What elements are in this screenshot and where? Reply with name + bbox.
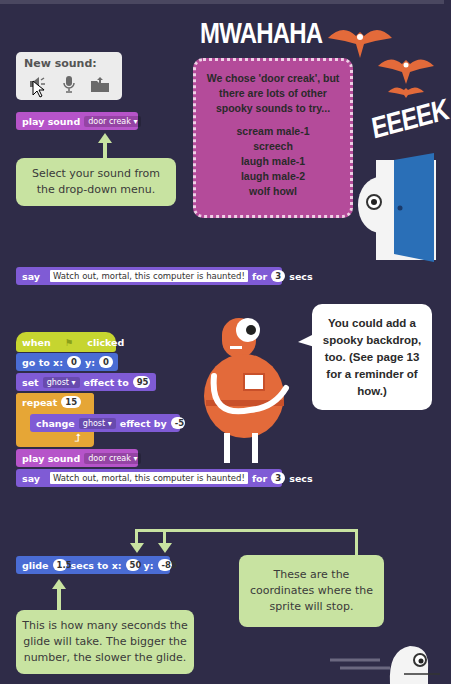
effect-dropdown[interactable]: ghost ▾ bbox=[43, 377, 80, 388]
say-text-input[interactable]: Watch out, mortal, this computer is haun… bbox=[50, 270, 248, 282]
effect-dropdown[interactable]: ghost ▾ bbox=[79, 418, 116, 429]
play-sound-label: play sound bbox=[22, 116, 80, 127]
effect-by-label: effect by bbox=[120, 418, 167, 429]
effect-value-input[interactable]: 95 bbox=[133, 376, 150, 388]
say-label: say bbox=[22, 473, 40, 484]
say-text-input[interactable]: Watch out, mortal, this computer is haun… bbox=[50, 472, 248, 484]
play-sound-block[interactable]: play sound door creak ▾ bbox=[16, 112, 138, 130]
callout-select-sound: Select your sound from the drop-down men… bbox=[16, 158, 176, 206]
sound-item: laugh male-2 bbox=[202, 169, 344, 184]
robot-character-illustration bbox=[200, 308, 310, 468]
goto-label: go to x: bbox=[22, 357, 63, 368]
arrow-head bbox=[158, 543, 172, 553]
arrow-head bbox=[130, 543, 144, 553]
secs-input[interactable]: 3 bbox=[271, 472, 285, 484]
secs-label: secs bbox=[289, 271, 312, 282]
ghost-behind-door-illustration bbox=[356, 150, 444, 265]
top-edge bbox=[0, 0, 444, 4]
clicked-label: clicked bbox=[87, 337, 124, 348]
mwahaha-title: MWAHAHA bbox=[200, 16, 322, 50]
set-label: set bbox=[22, 377, 39, 388]
coords-arrow-line bbox=[355, 529, 358, 555]
for-label: for bbox=[252, 271, 267, 282]
say-block[interactable]: say Watch out, mortal, this computer is … bbox=[16, 469, 282, 487]
repeat-header: repeat 15 bbox=[16, 393, 94, 411]
glide-x-input[interactable]: 50 bbox=[126, 559, 140, 571]
new-sound-panel: New sound: bbox=[16, 52, 122, 100]
spooky-sounds-tip: We chose 'door creak', but there are lot… bbox=[193, 58, 353, 218]
when-flag-clicked-block[interactable]: when ⚑ clicked bbox=[16, 332, 116, 352]
y-label: y: bbox=[85, 357, 95, 368]
glide-y-input[interactable]: -85 bbox=[158, 559, 172, 571]
glide-secs-input[interactable]: 1.5 bbox=[53, 559, 67, 571]
glide-label: glide bbox=[22, 560, 49, 571]
eeeek-title: EEEEK bbox=[369, 92, 450, 145]
change-value-input[interactable]: -5 bbox=[171, 417, 185, 429]
tip-intro: We chose 'door creak', but there are lot… bbox=[202, 71, 344, 116]
callout-seconds: This is how many seconds the glide will … bbox=[16, 610, 194, 674]
arrow-line bbox=[57, 588, 61, 610]
change-label: change bbox=[36, 418, 75, 429]
sound-list: scream male-1 screech laugh male-1 laugh… bbox=[202, 124, 344, 199]
change-effect-block[interactable]: change ghost ▾ effect by -5 bbox=[30, 414, 180, 432]
y-label: y: bbox=[144, 560, 154, 571]
for-label: for bbox=[252, 473, 267, 484]
when-label: when bbox=[22, 337, 51, 348]
go-to-xy-block[interactable]: go to x: 0 y: 0 bbox=[16, 353, 118, 371]
ghost-sprite-illustration bbox=[330, 640, 444, 684]
say-label: say bbox=[22, 271, 40, 282]
sound-dropdown[interactable]: door creak ▾ bbox=[84, 453, 141, 464]
callout-coordinates: These are the coordinates where the spri… bbox=[239, 555, 384, 627]
secs-label: secs bbox=[289, 473, 312, 484]
sound-item: screech bbox=[202, 139, 344, 154]
glide-block[interactable]: glide 1.5 secs to x: 50 y: -85 bbox=[16, 556, 170, 574]
speech-bubble: You could add a spooky backdrop, too. (S… bbox=[312, 304, 432, 410]
effect-to-label: effect to bbox=[84, 377, 129, 388]
sound-item: wolf howl bbox=[202, 184, 344, 199]
arrow-line bbox=[103, 142, 107, 158]
play-sound-block[interactable]: play sound door creak ▾ bbox=[16, 449, 138, 467]
sound-item: scream male-1 bbox=[202, 124, 344, 139]
secs-to-x-label: secs to x: bbox=[71, 560, 122, 571]
coords-arrow-line bbox=[135, 529, 358, 532]
y-input[interactable]: 0 bbox=[99, 356, 113, 368]
mouse-cursor-icon bbox=[32, 80, 46, 100]
green-flag-icon: ⚑ bbox=[65, 337, 74, 348]
secs-input[interactable]: 3 bbox=[271, 270, 285, 282]
new-sound-label: New sound: bbox=[24, 57, 97, 70]
say-block[interactable]: say Watch out, mortal, this computer is … bbox=[16, 267, 282, 285]
coords-arrow-line bbox=[135, 529, 138, 543]
repeat-count-input[interactable]: 15 bbox=[61, 396, 81, 408]
loop-arrow-icon: ⮥ bbox=[74, 431, 80, 444]
sound-item: laugh male-1 bbox=[202, 154, 344, 169]
set-effect-block[interactable]: set ghost ▾ effect to 95 bbox=[16, 373, 156, 391]
play-sound-label: play sound bbox=[22, 453, 80, 464]
coords-arrow-line bbox=[163, 529, 166, 543]
repeat-label: repeat bbox=[22, 397, 57, 408]
sound-dropdown[interactable]: door creak ▾ bbox=[84, 116, 141, 127]
microphone-icon[interactable] bbox=[62, 75, 76, 93]
upload-folder-icon[interactable] bbox=[90, 76, 110, 92]
x-input[interactable]: 0 bbox=[67, 356, 81, 368]
